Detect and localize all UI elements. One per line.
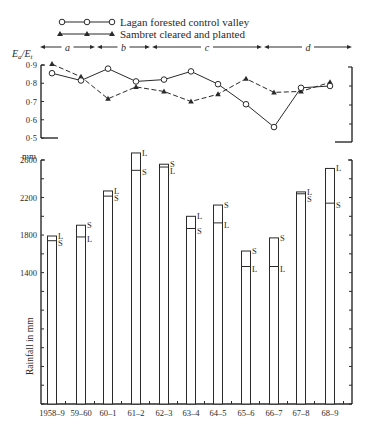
bar-inner-label: S — [114, 193, 119, 203]
open-circle-marker-icon — [109, 19, 115, 25]
open-circle-marker-icon — [161, 77, 167, 83]
arrow-right-icon — [90, 45, 95, 49]
top-ytick-label: 0·5 — [26, 133, 37, 143]
arrow-left-icon — [40, 45, 45, 49]
bar-inner-label: L — [252, 264, 257, 274]
top-ytick-label: 0·9 — [26, 60, 37, 70]
bar-series: LSSLLSLSSLLSSLSLSLLSLS — [48, 148, 344, 404]
bar-ytick-label: 1800 — [20, 230, 37, 240]
arrow-right-icon — [347, 45, 352, 49]
open-circle-marker-icon — [188, 69, 194, 75]
figure: Lagan forested control valley Sambret cl… — [0, 0, 372, 436]
bar-group: LS — [48, 231, 64, 404]
bar-inner-label: L — [280, 264, 285, 274]
bar-top-label: L — [197, 211, 202, 221]
x-tick-label: 60–1 — [100, 408, 117, 418]
top-ytick-label: 0·8 — [26, 78, 37, 88]
bar-ytick-label: 2200 — [20, 193, 37, 203]
top-chart: Ea/Et 0·90·80·70·60·5 — [11, 48, 352, 143]
legend-sambret-label: Sambret cleared and planted — [120, 28, 245, 40]
bar-group: LS — [187, 211, 203, 404]
x-tick-label: 1958–9 — [39, 408, 65, 418]
bar-inner-label: S — [307, 194, 312, 204]
bar-group: LS — [104, 186, 120, 404]
open-circle-marker-icon — [49, 70, 55, 76]
bar-inner-label: L — [224, 220, 229, 230]
period-arrows: abcd — [40, 42, 352, 53]
triangle-marker-icon — [215, 91, 221, 96]
bar-top-label: S — [87, 220, 92, 230]
lagan-line — [52, 69, 330, 127]
bar-top-label: S — [280, 233, 285, 243]
bar-inner-label: S — [336, 200, 341, 210]
bar-group: SL — [242, 246, 258, 404]
bar-top-label: L — [142, 148, 147, 158]
bar-inner-label: S — [142, 167, 147, 177]
open-circle-marker-icon — [215, 81, 221, 87]
bar-group: SL — [270, 233, 286, 404]
bar-group: SL — [214, 200, 230, 404]
period-label: a — [65, 42, 70, 53]
bar-inner-label: S — [58, 238, 63, 248]
period-label: d — [306, 42, 312, 53]
bar-ylabel: Rainfall in mm — [25, 317, 35, 375]
triangle-marker-icon — [49, 61, 55, 66]
legend-lagan-label: Lagan forested control valley — [120, 16, 250, 28]
x-tick-label: 63–4 — [183, 408, 201, 418]
bar-top-label: S — [224, 200, 229, 210]
top-ytick-label: 0·7 — [26, 97, 37, 107]
x-tick-label: 59–60 — [70, 408, 91, 418]
x-tick-label: 61–2 — [128, 408, 145, 418]
x-tick-label: 66–7 — [266, 408, 283, 418]
open-circle-marker-icon — [133, 79, 139, 85]
open-circle-marker-icon — [298, 85, 304, 91]
open-circle-marker-icon — [78, 78, 84, 84]
arrow-right-icon — [257, 45, 262, 49]
bar-ytick-label: 1400 — [20, 268, 37, 278]
legend: Lagan forested control valley Sambret cl… — [57, 16, 250, 40]
bottom-chart: mm 2600220018001400 LSSLLSLSSLLSSLSLSLLS… — [20, 148, 352, 418]
arrow-left-icon — [152, 45, 157, 49]
arrow-right-icon — [145, 45, 150, 49]
legend-lagan: Lagan forested control valley — [59, 16, 249, 28]
triangle-marker-icon — [243, 76, 249, 81]
open-circle-marker-icon — [84, 19, 90, 25]
x-tick-label: 68–9 — [322, 408, 339, 418]
bar-group: SL — [77, 220, 93, 404]
bar-ytick-label: 2600 — [20, 155, 37, 165]
bar-inner-label: L — [87, 234, 92, 244]
bar-group: LS — [326, 163, 342, 404]
top-ytick-label: 0·6 — [26, 115, 37, 125]
open-circle-marker-icon — [59, 19, 65, 25]
bar-inner-label: L — [170, 166, 175, 176]
bar-group: SL — [160, 159, 176, 404]
arrow-left-icon — [264, 45, 269, 49]
open-circle-marker-icon — [271, 124, 277, 130]
legend-sambret: Sambret cleared and planted — [57, 28, 245, 40]
period-label: b — [121, 42, 126, 53]
bar-top-label: S — [252, 246, 257, 256]
arrow-left-icon — [97, 45, 102, 49]
period-label: c — [205, 42, 210, 53]
bar-group: LS — [132, 148, 148, 404]
bar-group: LS — [297, 187, 313, 404]
x-tick-label: 65–6 — [238, 408, 255, 418]
bar-inner-label: S — [197, 226, 202, 236]
open-circle-marker-icon — [105, 66, 111, 72]
x-tick-label: 64–5 — [210, 408, 227, 418]
bar-top-label: L — [336, 163, 341, 173]
x-tick-label: 67–8 — [293, 408, 310, 418]
top-right-bracket — [335, 67, 352, 142]
x-axis-labels: 1958–959–6060–161–262–363–464–565–666–76… — [39, 408, 338, 418]
open-circle-marker-icon — [243, 101, 249, 107]
open-circle-marker-icon — [327, 83, 333, 89]
top-line-series — [49, 61, 333, 130]
x-tick-label: 62–3 — [156, 408, 173, 418]
